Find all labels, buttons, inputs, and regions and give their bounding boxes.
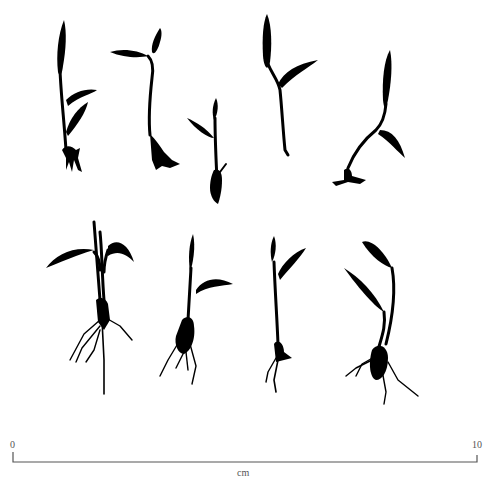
scale-bar: [13, 452, 477, 462]
scale-unit-label: cm: [237, 467, 249, 478]
plant-specimen-6: [46, 222, 134, 394]
plant-specimen-1: [57, 20, 97, 172]
plant-specimen-4: [263, 14, 318, 155]
plant-specimen-5: [332, 50, 405, 186]
scale-start-label: 0: [10, 439, 15, 450]
plant-specimen-9: [344, 241, 418, 404]
scale-end-label: 10: [472, 439, 482, 450]
plant-specimen-7: [160, 234, 233, 384]
specimen-figure: [0, 0, 499, 490]
plant-specimen-8: [266, 236, 306, 392]
plant-specimen-3: [187, 98, 226, 204]
plant-specimen-2: [110, 28, 180, 170]
